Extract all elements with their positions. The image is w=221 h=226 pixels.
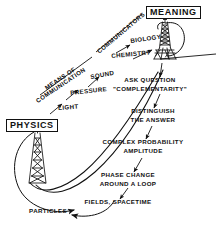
diagram-canvas: MEANING PHYSICS MEANS OF COMMUNICATION S… — [0, 0, 221, 226]
chain-step-4-line1: PHASE CHANGE — [101, 172, 155, 179]
chain-step-1-line1: ASK QUESTION — [124, 77, 175, 84]
chain-step-5-line1: FIELDS, SPACETIME — [84, 199, 151, 206]
chain-step-2-line1: DISTINGUISH — [131, 108, 175, 115]
node-physics-label[interactable]: PHYSICS — [6, 119, 58, 132]
chain-step-3-line1: COMPLEX PROBABILITY — [103, 139, 184, 146]
node-meaning-label[interactable]: MEANING — [146, 6, 201, 19]
physics-tower — [29, 128, 46, 183]
chain-step-1-line2: "COMPLEMENTARITY" — [113, 86, 187, 93]
chain-step-3-line2: AMPLITUDE — [123, 148, 162, 155]
diagram-linework — [0, 0, 221, 226]
chain-step-6-line1: PARTICLES — [29, 208, 67, 215]
chain-step-2-line2: THE ANSWER — [131, 117, 176, 124]
chain-step-4-line2: AROUND A LOOP — [100, 181, 157, 188]
